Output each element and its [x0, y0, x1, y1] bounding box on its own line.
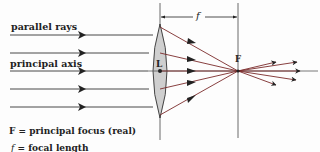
- focus-point: [236, 69, 239, 72]
- focus-label: F: [235, 55, 241, 64]
- lens-center-point: [158, 69, 162, 73]
- refracted-arrowheads: [187, 38, 196, 103]
- lens-center-label: L: [156, 60, 162, 69]
- principal-axis-label: principal axis: [10, 59, 82, 69]
- legend: F = principal focus (real) f = focal len…: [9, 127, 136, 152]
- legend-focus: F = principal focus (real): [9, 127, 136, 136]
- legend-focal-length-text: = focal length: [14, 143, 88, 152]
- parallel-rays-label: parallel rays: [11, 22, 77, 32]
- legend-focal-length: f = focal length: [9, 138, 136, 152]
- diverging-rays: [238, 62, 300, 85]
- focal-length-symbol: f: [196, 11, 200, 21]
- refracted-rays: [160, 27, 238, 115]
- convex-lens-diagram: parallel rays principal axis L F f F = p…: [0, 0, 320, 152]
